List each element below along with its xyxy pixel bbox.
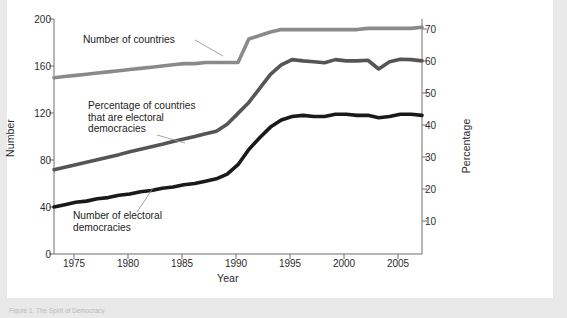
y-axis-left [49,19,54,254]
x-tick-label: 1980 [108,258,148,269]
y-left-tick-label: 80 [25,155,51,166]
y-right-tick-label: 60 [425,56,451,67]
y-left-tick-label: 120 [25,108,51,119]
y-left-tick-label: 0 [25,249,51,260]
line-chart: Number Percentage Year 200 160 120 80 40… [7,0,553,298]
y-right-tick-label: 40 [425,120,451,131]
y-axis-right-title: Percentage [460,119,472,174]
annotation-number-of-electoral-democracies: Number of electoral democracies [73,210,162,233]
annotation-number-of-countries: Number of countries [83,34,175,46]
x-tick-label: 1975 [54,258,94,269]
y-left-tick-label: 40 [25,202,51,213]
y-right-tick-label: 50 [425,88,451,99]
y-axis-left-title: Number [4,119,16,157]
figure-root: Number Percentage Year 200 160 120 80 40… [0,0,567,318]
y-right-tick-label: 30 [425,152,451,163]
x-axis-title: Year [217,272,239,284]
y-right-tick-label: 10 [425,216,451,227]
figure-card: Number Percentage Year 200 160 120 80 40… [7,0,553,298]
x-tick-label: 1985 [162,258,202,269]
x-tick-label: 1995 [270,258,310,269]
x-tick-label: 2000 [324,258,364,269]
leader-line-countries [195,40,223,56]
y-left-tick-label: 200 [25,14,51,25]
x-tick-label: 1990 [216,258,256,269]
y-right-tick-label: 70 [425,24,451,35]
annotation-percentage-electoral-democracies: Percentage of countries that are elector… [88,100,196,135]
y-left-tick-label: 160 [25,61,51,72]
y-right-tick-label: 20 [425,184,451,195]
figure-caption: Figure 1. The Spirit of Democracy [9,307,549,314]
x-tick-label: 2005 [378,258,418,269]
